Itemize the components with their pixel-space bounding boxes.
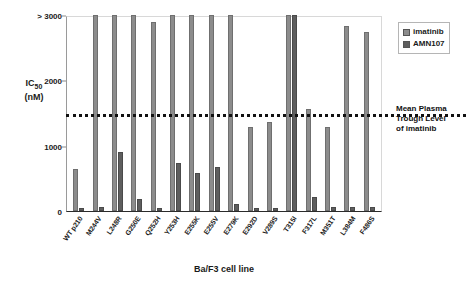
- bar-imatinib[interactable]: [306, 109, 311, 211]
- x-axis-tick-label: E255V: [202, 215, 220, 236]
- x-axis-tick-label-cell: E255V: [205, 213, 225, 261]
- bar-imatinib[interactable]: [228, 15, 233, 211]
- x-axis-tick-label: F486S: [359, 215, 376, 236]
- threshold-annotation-line-3: of imatinib: [396, 124, 470, 134]
- bar-amn107[interactable]: [195, 173, 200, 211]
- bar-imatinib[interactable]: [344, 26, 349, 211]
- x-axis-tick-label-cell: L384M: [341, 213, 361, 261]
- ic50-bar-chart: IC50 (nM) 010002000> 3000 WT p210M244VL2…: [0, 0, 470, 286]
- bar-amn107[interactable]: [176, 163, 181, 211]
- x-axis-tick-label-cell: V289S: [263, 213, 283, 261]
- y-axis-tick-label: 1000: [16, 142, 62, 151]
- legend-label: AMN107: [413, 38, 445, 50]
- bar-imatinib[interactable]: [73, 169, 78, 211]
- x-axis-tick-label: E292D: [241, 215, 259, 236]
- bar-amn107[interactable]: [157, 208, 162, 211]
- legend-item[interactable]: AMN107: [403, 38, 445, 50]
- bar-amn107[interactable]: [312, 197, 317, 211]
- x-axis-tick-label-cell: M244V: [88, 213, 108, 261]
- x-axis-tick-label-cell: F486S: [361, 213, 381, 261]
- y-axis-tick-label: 2000: [16, 77, 62, 86]
- y-axis-tick-label: 0: [16, 208, 62, 217]
- bar-imatinib[interactable]: [325, 127, 330, 211]
- y-axis-tick-mark: [62, 146, 66, 147]
- x-axis-tick-label: V289S: [261, 215, 279, 236]
- bar-imatinib[interactable]: [267, 122, 272, 212]
- bar-amn107[interactable]: [370, 207, 375, 211]
- bar-imatinib[interactable]: [286, 15, 291, 211]
- mean-plasma-trough-threshold-line: [66, 114, 466, 117]
- y-axis-tick-mark: [62, 81, 66, 82]
- bar-amn107[interactable]: [254, 208, 259, 211]
- x-axis-tick-label: L384M: [339, 215, 357, 236]
- bar-amn107[interactable]: [137, 199, 142, 211]
- x-axis-title: Ba/F3 cell line: [66, 264, 382, 274]
- bar-imatinib[interactable]: [248, 127, 253, 211]
- bar-amn107[interactable]: [273, 208, 278, 211]
- x-axis-tick-label-cell: Q252H: [146, 213, 166, 261]
- x-axis-tick-label: Y253H: [163, 215, 181, 236]
- x-axis-tick-label: Q252H: [143, 215, 161, 237]
- bar-amn107[interactable]: [99, 207, 104, 211]
- x-axis-tick-label-cell: F317L: [302, 213, 322, 261]
- x-axis-tick-label: E279K: [222, 215, 240, 236]
- bar-amn107[interactable]: [292, 15, 297, 211]
- legend-label: imatinib: [413, 26, 444, 38]
- threshold-annotation-line-1: Mean Plasma: [396, 104, 470, 114]
- bar-imatinib[interactable]: [131, 15, 136, 211]
- x-axis-tick-label: WT p210: [62, 215, 84, 242]
- bar-imatinib[interactable]: [112, 15, 117, 211]
- legend: imatinibAMN107: [398, 22, 450, 54]
- x-axis-tick-label-cell: M351T: [322, 213, 342, 261]
- y-axis-tick-mark: [62, 16, 66, 17]
- y-axis-ticks: 010002000> 3000: [10, 0, 62, 286]
- x-axis-tick-label-cell: E279K: [224, 213, 244, 261]
- x-axis-tick-label-cell: WT p210: [68, 213, 88, 261]
- y-axis-tick-label: > 3000: [16, 12, 62, 21]
- x-axis-tick-label-cell: E292D: [244, 213, 264, 261]
- x-axis-tick-label: L248R: [105, 215, 123, 236]
- bar-amn107[interactable]: [215, 167, 220, 211]
- x-axis-tick-label: M351T: [319, 215, 337, 236]
- legend-swatch-icon: [403, 29, 410, 36]
- bar-amn107[interactable]: [331, 207, 336, 211]
- x-axis-tick-label: E255K: [183, 215, 201, 236]
- x-axis-tick-label: T315I: [282, 215, 298, 233]
- x-axis-tick-label: G250E: [124, 215, 142, 236]
- x-axis-tick-label-cell: L248R: [107, 213, 127, 261]
- x-axis-tick-label-cell: T315I: [283, 213, 303, 261]
- bar-imatinib[interactable]: [364, 32, 369, 211]
- legend-item[interactable]: imatinib: [403, 26, 445, 38]
- x-axis-tick-label-cell: Y253H: [166, 213, 186, 261]
- bar-amn107[interactable]: [350, 207, 355, 211]
- bar-amn107[interactable]: [234, 204, 239, 211]
- bar-imatinib[interactable]: [170, 15, 175, 211]
- x-axis-tick-label-cell: G250E: [127, 213, 147, 261]
- x-axis-tick-labels: WT p210M244VL248RG250EQ252HY253HE255KE25…: [66, 213, 382, 261]
- x-axis-tick-label-cell: E255K: [185, 213, 205, 261]
- bar-amn107[interactable]: [118, 152, 123, 211]
- bar-imatinib[interactable]: [189, 15, 194, 211]
- threshold-annotation: Mean Plasma Trough Level of imatinib: [396, 104, 470, 134]
- legend-swatch-icon: [403, 41, 410, 48]
- bar-imatinib[interactable]: [209, 15, 214, 211]
- x-axis-tick-label: M244V: [85, 215, 103, 237]
- bar-imatinib[interactable]: [93, 15, 98, 211]
- bar-amn107[interactable]: [79, 208, 84, 211]
- x-axis-tick-label: F317L: [300, 215, 317, 235]
